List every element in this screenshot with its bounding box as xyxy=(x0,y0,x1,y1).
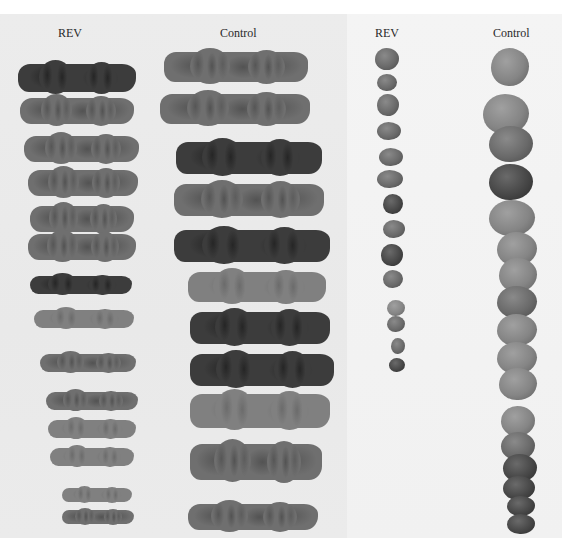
specimen-nodule xyxy=(489,126,533,162)
specimen-nodule xyxy=(387,300,405,316)
specimen-nodule xyxy=(507,514,535,534)
specimen-strip xyxy=(40,354,136,372)
specimen-strip xyxy=(174,230,330,262)
specimen-strip xyxy=(28,234,136,260)
specimen-nodule xyxy=(377,170,403,188)
specimen-strip xyxy=(18,64,136,92)
specimen-strip xyxy=(48,420,136,438)
specimen-strip xyxy=(62,488,132,502)
specimen-strip xyxy=(28,170,138,196)
label-control-right: Control xyxy=(493,26,530,41)
specimen-nodule xyxy=(499,368,537,400)
specimen-nodule xyxy=(383,194,403,214)
specimen-strip xyxy=(190,444,322,480)
specimen-nodule xyxy=(391,338,405,354)
right-panel-nodules: REV Control xyxy=(347,14,562,538)
specimen-strip xyxy=(174,184,324,216)
specimen-nodule xyxy=(377,94,399,116)
specimen-strip xyxy=(20,98,134,124)
specimen-strip xyxy=(160,94,310,124)
specimen-nodule xyxy=(377,122,401,140)
specimen-strip xyxy=(50,448,134,466)
specimen-nodule xyxy=(489,164,533,200)
specimen-nodule xyxy=(377,74,397,91)
specimen-nodule xyxy=(389,358,405,372)
label-rev-right: REV xyxy=(375,26,399,41)
specimen-strip xyxy=(164,52,308,82)
specimen-strip xyxy=(46,392,138,410)
specimen-strip xyxy=(30,206,134,232)
left-panel-intestine-strips: REV Control xyxy=(0,14,347,538)
specimen-strip xyxy=(34,310,134,328)
specimen-nodule xyxy=(375,48,399,70)
specimen-nodule xyxy=(383,270,403,288)
label-control-left: Control xyxy=(220,26,257,41)
specimen-strip xyxy=(190,394,330,428)
specimen-strip xyxy=(24,136,139,162)
specimen-nodule xyxy=(387,316,405,332)
specimen-nodule xyxy=(381,244,403,266)
specimen-strip xyxy=(176,142,322,174)
specimen-nodule xyxy=(507,496,535,516)
specimen-strip xyxy=(62,510,134,524)
specimen-nodule xyxy=(383,220,405,238)
specimen-strip xyxy=(190,312,330,344)
specimen-nodule xyxy=(379,148,403,166)
specimen-strip xyxy=(190,354,334,386)
specimen-nodule xyxy=(491,48,529,86)
specimen-strip xyxy=(188,272,326,302)
specimen-strip xyxy=(188,504,318,530)
label-rev-left: REV xyxy=(58,26,82,41)
specimen-photograph: REV Control xyxy=(0,14,562,538)
specimen-strip xyxy=(30,276,132,294)
specimen-nodule xyxy=(489,200,535,236)
